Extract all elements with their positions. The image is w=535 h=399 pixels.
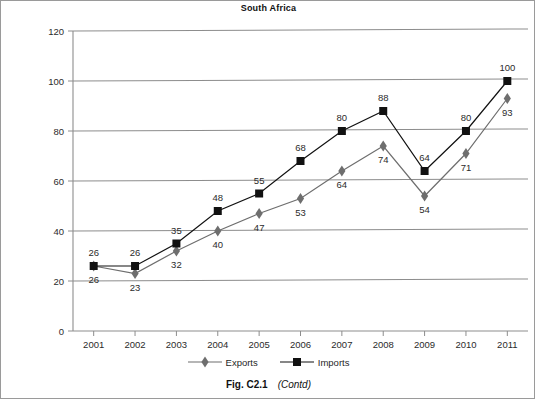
y-gridline — [73, 179, 528, 181]
data-point-marker-imports — [131, 262, 139, 270]
data-point-label-imports: 100 — [499, 62, 515, 73]
data-point-marker-exports — [338, 166, 345, 177]
x-axis-tick-label: 2001 — [83, 339, 104, 350]
y-gridline — [73, 279, 528, 281]
data-point-label-imports: 35 — [171, 225, 182, 236]
y-axis-tick-label: 20 — [53, 276, 64, 287]
data-point-label-exports: 71 — [461, 162, 472, 173]
data-point-label-imports: 26 — [130, 247, 141, 258]
x-axis-tick-label: 2007 — [331, 339, 352, 350]
data-point-label-exports: 32 — [171, 259, 182, 270]
data-point-label-exports: 47 — [254, 222, 265, 233]
x-axis-tick-label: 2004 — [207, 339, 228, 350]
chart-legend: ExportsImports — [1, 356, 535, 368]
data-point-label-imports: 48 — [212, 192, 223, 203]
x-axis-tick-label: 2002 — [124, 339, 145, 350]
figure-caption: Fig. C2.1(Contd) — [1, 379, 535, 390]
figure-contd-note: (Contd) — [278, 379, 311, 390]
square-marker-icon — [280, 356, 314, 368]
figure-number: Fig. C2.1 — [226, 379, 268, 390]
data-point-marker-imports — [421, 167, 429, 175]
y-axis-tick-label: 60 — [53, 176, 64, 187]
data-point-marker-exports — [297, 193, 304, 204]
data-point-marker-imports — [338, 127, 346, 135]
data-point-label-imports: 26 — [88, 247, 99, 258]
y-axis-tick-label: 120 — [48, 26, 64, 37]
legend-label-exports: Exports — [226, 357, 258, 368]
y-axis-tick-label: 40 — [53, 226, 64, 237]
y-gridline — [73, 229, 528, 231]
y-axis-tick-label: 0 — [59, 326, 64, 337]
legend-label-imports: Imports — [318, 357, 350, 368]
y-axis-tick-label: 80 — [53, 126, 64, 137]
data-point-marker-imports — [255, 190, 263, 198]
x-axis-tick-label: 2003 — [166, 339, 187, 350]
data-point-label-imports: 80 — [461, 112, 472, 123]
data-point-label-exports: 54 — [419, 204, 430, 215]
x-axis-tick-label: 2006 — [290, 339, 311, 350]
data-point-label-exports: 53 — [295, 207, 306, 218]
data-point-label-imports: 68 — [295, 142, 306, 153]
data-point-marker-exports — [256, 208, 263, 219]
data-point-label-exports: 26 — [88, 274, 99, 285]
data-point-marker-imports — [462, 127, 470, 135]
data-point-marker-imports — [503, 77, 511, 85]
data-point-marker-imports — [297, 157, 305, 165]
x-axis-tick-label: 2005 — [249, 339, 270, 350]
data-point-marker-exports — [214, 226, 221, 237]
series-line-exports — [94, 99, 508, 274]
y-axis-tick-label: 100 — [48, 76, 64, 87]
data-point-marker-imports — [90, 262, 98, 270]
data-point-label-imports: 88 — [378, 92, 389, 103]
data-point-marker-imports — [172, 240, 180, 248]
data-point-label-imports: 80 — [337, 112, 348, 123]
y-gridline — [73, 79, 528, 81]
series-line-imports — [94, 81, 508, 266]
x-axis-tick-label: 2009 — [414, 339, 435, 350]
data-point-label-imports: 55 — [254, 175, 265, 186]
data-point-label-imports: 64 — [419, 152, 430, 163]
data-point-label-exports: 93 — [502, 107, 513, 118]
data-point-label-exports: 74 — [378, 154, 389, 165]
data-point-marker-imports — [379, 107, 387, 115]
line-chart-plot: 0204060801001202001200220032004200520062… — [1, 1, 535, 356]
figure-container: South Africa 020406080100120200120022003… — [0, 0, 535, 399]
y-gridline — [73, 29, 528, 31]
data-point-label-exports: 40 — [212, 239, 223, 250]
data-point-label-exports: 64 — [337, 179, 348, 190]
data-point-label-exports: 23 — [130, 282, 141, 293]
x-axis-tick-label: 2011 — [497, 339, 517, 350]
y-gridline — [73, 129, 528, 131]
data-point-marker-imports — [214, 207, 222, 215]
legend-entry-exports[interactable]: Exports — [188, 356, 258, 368]
x-axis-tick-label: 2010 — [455, 339, 476, 350]
x-axis-tick-label: 2008 — [373, 339, 394, 350]
legend-entry-imports[interactable]: Imports — [280, 356, 350, 368]
diamond-marker-icon — [188, 356, 222, 368]
